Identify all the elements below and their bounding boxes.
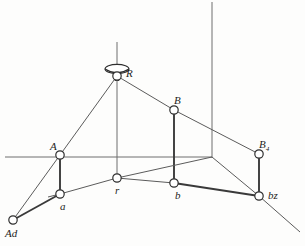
node-label-Bq: B4 [259,139,269,153]
node-label-text-Ad: Ad [5,227,17,239]
node-label-text-Bq: B [259,138,266,150]
node-point-B[interactable] [170,106,178,114]
edge-B-Bq [174,110,259,154]
edge-a-r [60,178,117,194]
node-label-text-r: r [115,184,119,196]
diagram-canvas [0,0,305,246]
node-label-text-b: b [175,189,181,201]
edge-A-Ad [13,155,60,220]
node-point-bz[interactable] [255,192,263,200]
node-label-A: A [50,141,57,152]
edge-bz-extension [259,196,300,232]
node-point-r[interactable] [113,174,121,182]
node-point-Ad[interactable] [9,216,17,224]
node-label-bz: bz [268,190,278,201]
axes-group [5,2,212,178]
node-point-A[interactable] [56,151,64,159]
node-label-text-bz: bz [268,189,278,201]
edge-Ad-a [13,194,60,220]
node-label-R: R [126,68,133,79]
figure-container: RAaAdBbrB4bz [0,0,305,246]
node-label-text-B: B [174,94,181,106]
edge-R-B [117,76,174,110]
node-label-r: r [115,185,119,196]
node-point-R[interactable] [113,72,121,80]
node-label-text-a: a [60,200,66,212]
node-point-b[interactable] [170,179,178,187]
node-label-a: a [60,201,66,212]
node-label-text-R: R [126,67,133,79]
node-label-text-A: A [50,140,57,152]
node-label-subscript-Bq: 4 [266,145,270,153]
edge-r-b [117,178,174,183]
node-point-a[interactable] [56,190,64,198]
node-label-b: b [175,190,181,201]
edge-r-ground-right [117,157,212,178]
edge-R-A [60,76,117,155]
node-label-Ad: Ad [5,228,17,239]
node-label-B: B [174,95,181,106]
